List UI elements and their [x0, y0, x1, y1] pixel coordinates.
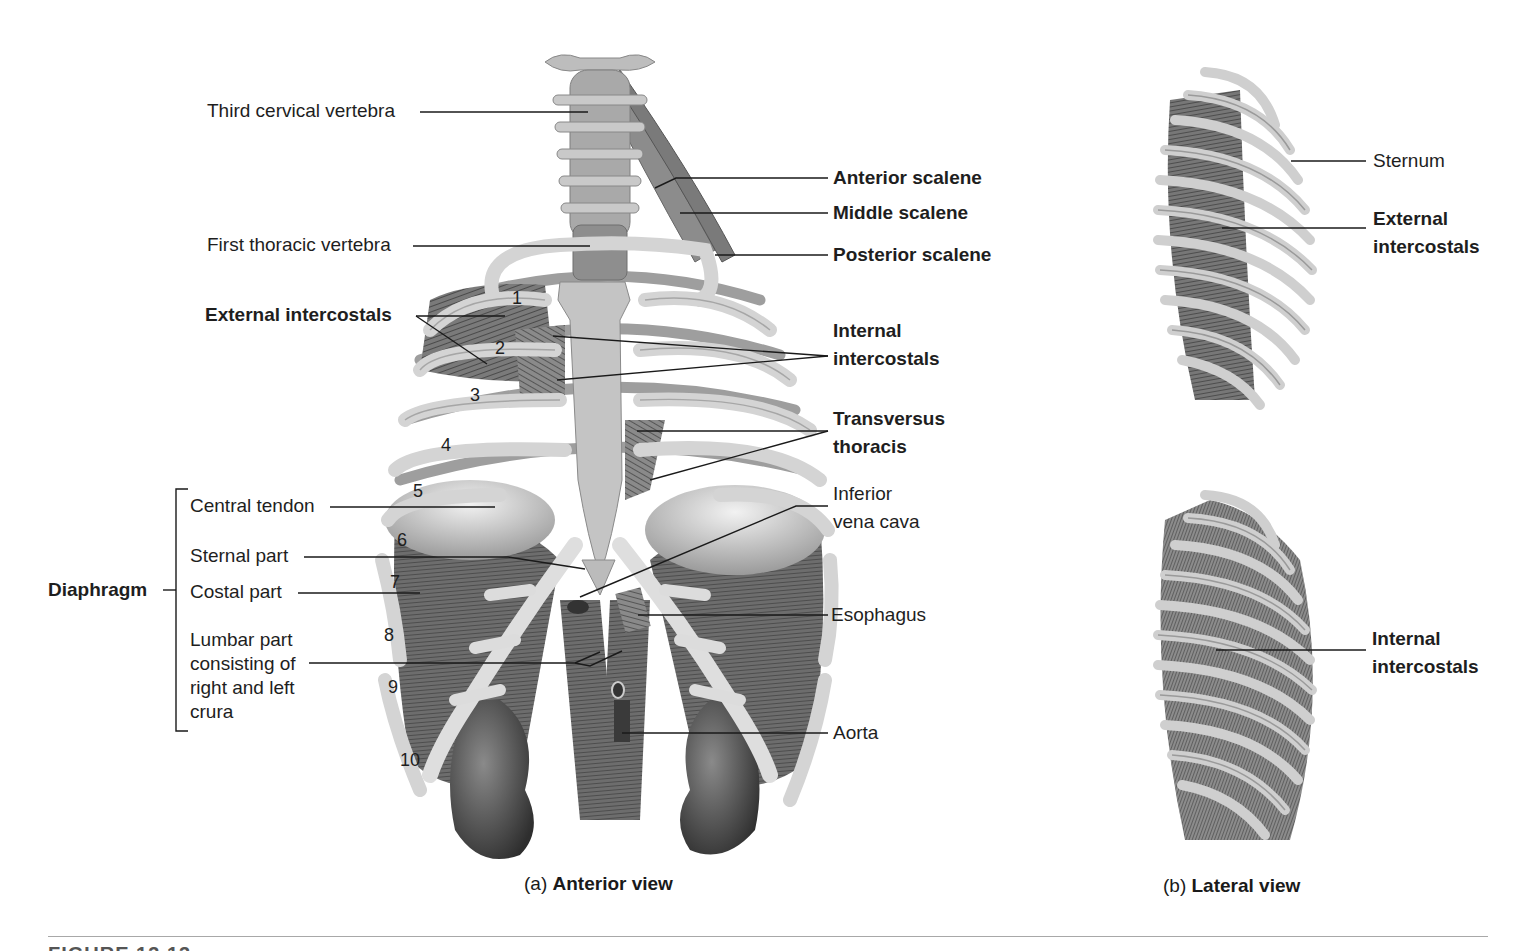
caption-lateral-prefix: (b) [1163, 875, 1186, 896]
caption-anterior-title: Anterior view [553, 873, 673, 894]
figure-divider [48, 936, 1488, 937]
rib-number-4: 4 [441, 433, 451, 457]
label-inferior-vena-cava-line2: vena cava [833, 510, 920, 534]
label-lumbar-part-line4: crura [190, 700, 233, 724]
label-posterior-scalene: Posterior scalene [833, 243, 991, 267]
label-esophagus: Esophagus [831, 603, 926, 627]
label-first-thoracic-vertebra: First thoracic vertebra [207, 233, 391, 257]
label-aorta: Aorta [833, 721, 878, 745]
label-external-intercostals-lateral-line1: External [1373, 207, 1448, 231]
label-external-intercostals-lateral-line2: intercostals [1373, 235, 1480, 259]
label-central-tendon: Central tendon [190, 494, 315, 518]
label-inferior-vena-cava-line1: Inferior [833, 482, 892, 506]
label-lumbar-part-line3: right and left [190, 676, 295, 700]
rib-number-1: 1 [512, 286, 522, 310]
label-diaphragm: Diaphragm [48, 578, 147, 602]
label-anterior-scalene: Anterior scalene [833, 166, 982, 190]
label-sternum: Sternum [1373, 149, 1445, 173]
label-middle-scalene: Middle scalene [833, 201, 968, 225]
label-lumbar-part-line2: consisting of [190, 652, 296, 676]
rib-number-5: 5 [413, 479, 423, 503]
label-costal-part: Costal part [190, 580, 282, 604]
caption-anterior-prefix: (a) [524, 873, 547, 894]
lateral-view-bottom-illustration [1158, 495, 1313, 840]
rib-number-7: 7 [390, 570, 400, 594]
lateral-view-top-illustration [1150, 72, 1312, 420]
label-transversus-thoracis-line2: thoracis [833, 435, 907, 459]
label-internal-intercostals-lateral-line1: Internal [1372, 627, 1441, 651]
label-internal-intercostals-lateral-line2: intercostals [1372, 655, 1479, 679]
label-third-cervical-vertebra: Third cervical vertebra [207, 99, 395, 123]
rib-number-10: 10 [400, 748, 420, 772]
label-sternal-part: Sternal part [190, 544, 288, 568]
rib-number-9: 9 [388, 675, 398, 699]
anatomy-illustration [0, 0, 1534, 951]
caption-lateral-view: (b) Lateral view [1163, 874, 1300, 898]
rib-number-3: 3 [470, 383, 480, 407]
label-transversus-thoracis-line1: Transversus [833, 407, 945, 431]
rib-number-8: 8 [384, 623, 394, 647]
label-external-intercostals-anterior: External intercostals [205, 303, 392, 327]
figure-caption-partial: FIGURE 13.13 [48, 944, 191, 951]
label-internal-intercostals-anterior-line2: intercostals [833, 347, 940, 371]
caption-lateral-title: Lateral view [1192, 875, 1301, 896]
rib-number-2: 2 [495, 336, 505, 360]
label-internal-intercostals-anterior-line1: Internal [833, 319, 902, 343]
label-lumbar-part-line1: Lumbar part [190, 628, 292, 652]
caption-anterior-view: (a) Anterior view [524, 872, 673, 896]
rib-number-6: 6 [397, 528, 407, 552]
